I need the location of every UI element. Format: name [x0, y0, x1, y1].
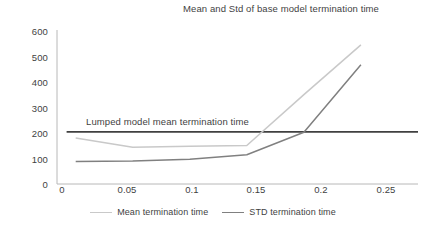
legend-item-mean: Mean termination time [90, 207, 208, 217]
legend-label-mean: Mean termination time [117, 207, 208, 217]
x-axis-tick-0.25: 0.25 [366, 184, 406, 195]
x-axis-tick-0.05: 0.05 [107, 184, 147, 195]
legend-swatch-std-icon [222, 212, 244, 213]
legend-item-std: STD termination time [222, 207, 336, 217]
x-axis-tick-0.2: 0.2 [301, 184, 341, 195]
series-line-std-termination-time [76, 65, 361, 162]
chart-legend: Mean termination time STD termination ti… [0, 207, 426, 217]
annotation-lumped-model: Lumped model mean termination time [86, 116, 249, 127]
x-axis-tick-0: 0 [42, 184, 82, 195]
x-axis-tick-0.15: 0.15 [236, 184, 276, 195]
chart-container: Mean and Std of base model termination t… [0, 0, 426, 233]
legend-label-std: STD termination time [249, 207, 336, 217]
legend-swatch-mean-icon [90, 212, 112, 213]
x-axis-tick-0.1: 0.1 [172, 184, 212, 195]
